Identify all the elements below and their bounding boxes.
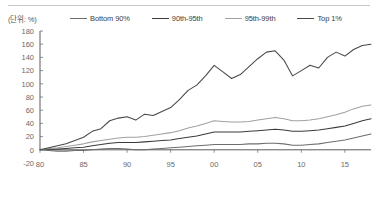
legend-label-90th-95th: 90th-95th bbox=[172, 14, 203, 23]
chart-legend: (단위: %) Bottom 90% 90th-95th 95th-99th T… bbox=[8, 12, 372, 24]
figure-top-rule bbox=[8, 5, 370, 6]
legend-swatch-95th-99th bbox=[225, 18, 242, 19]
x-tick-label: 90 bbox=[123, 160, 131, 169]
legend-swatch-top-1 bbox=[297, 18, 314, 19]
x-tick-label: 85 bbox=[79, 160, 87, 169]
legend-item-95th-99th: 95th-99th bbox=[225, 14, 276, 23]
x-tick-label: 05 bbox=[254, 160, 262, 169]
x-tick-label: 80 bbox=[36, 160, 44, 169]
legend-item-top-1: Top 1% bbox=[297, 14, 341, 23]
y-axis-tick-labels: 180160140120100806040200-20 bbox=[21, 27, 34, 168]
y-tick-label: 160 bbox=[21, 40, 34, 49]
x-tick-label: 15 bbox=[341, 160, 349, 169]
legend-label-95th-99th: 95th-99th bbox=[245, 14, 276, 23]
y-tick-label: 80 bbox=[26, 93, 34, 102]
legend-swatch-90th-95th bbox=[152, 18, 169, 19]
series-lines bbox=[40, 44, 371, 151]
x-tick-label: 95 bbox=[166, 160, 174, 169]
y-tick-label: 40 bbox=[26, 119, 34, 128]
y-tick-label: -20 bbox=[23, 159, 34, 168]
y-tick-label: 180 bbox=[21, 27, 34, 36]
legend-label-top-1: Top 1% bbox=[317, 14, 341, 23]
x-axis-tick-labels: 8085909500051015 bbox=[36, 160, 349, 169]
x-tick-label: 10 bbox=[297, 160, 305, 169]
y-tick-label: 140 bbox=[21, 53, 34, 62]
y-tick-label: 100 bbox=[21, 80, 34, 89]
plot-area: 180160140120100806040200-20 808590950005… bbox=[0, 24, 378, 197]
legend-item-bottom-90: Bottom 90% bbox=[70, 14, 130, 23]
y-tick-label: 0 bbox=[30, 146, 34, 155]
y-tick-label: 20 bbox=[26, 132, 34, 141]
chart-svg: 180160140120100806040200-20 808590950005… bbox=[0, 24, 378, 197]
chart-figure: (단위: %) Bottom 90% 90th-95th 95th-99th T… bbox=[0, 0, 378, 197]
legend-item-90th-95th: 90th-95th bbox=[152, 14, 203, 23]
y-tick-label: 60 bbox=[26, 106, 34, 115]
x-tick-label: 00 bbox=[210, 160, 218, 169]
legend-swatch-bottom-90 bbox=[70, 18, 87, 19]
y-tick-label: 120 bbox=[21, 66, 34, 75]
unit-label: (단위: %) bbox=[8, 13, 70, 24]
legend-label-bottom-90: Bottom 90% bbox=[90, 14, 130, 23]
